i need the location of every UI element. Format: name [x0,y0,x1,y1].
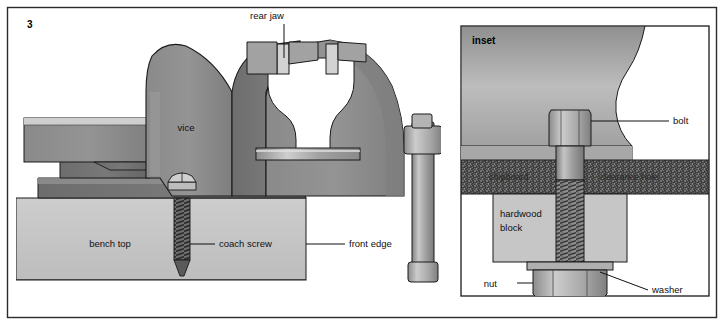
label-chipboard: chipboard [489,172,529,182]
washer [527,262,613,270]
vice-slide-bar [24,118,154,170]
label-coach-screw: coach screw [219,238,272,249]
label-nut: nut [484,278,498,289]
vice-slide-plate [256,148,360,160]
vice-fixing-diagram: 3 [0,0,724,325]
vice-jaw-face-rear [277,44,289,74]
label-front-edge: front edge [349,238,392,249]
label-vice: vice [178,122,195,133]
label-hardwood-block: hardwood [500,208,542,219]
label-bench-top: bench top [89,238,131,249]
nut [533,270,607,300]
vice-jaw-face-front [326,44,338,74]
label-bolt: bolt [673,115,689,126]
label-rear-jaw: rear jaw [250,10,284,21]
label-washer: washer [651,284,683,295]
label-clearance-hole: clearance hole [600,172,659,182]
figure-canvas: 3 [0,0,724,325]
inset-title: inset [472,35,496,46]
figure-number: 3 [27,19,33,30]
label-hardwood-block-line2: block [500,222,522,233]
